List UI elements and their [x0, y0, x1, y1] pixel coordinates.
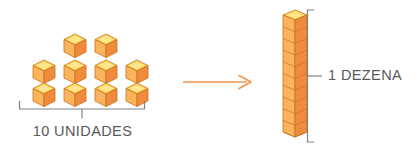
units-group: 10 UNIDADES	[0, 0, 175, 153]
units-caption: 10 UNIDADES	[0, 123, 165, 139]
units-bracket	[18, 100, 146, 120]
unit-cube	[93, 33, 119, 59]
ten-group: 1 DEZENA	[262, 0, 420, 153]
transform-arrow-icon	[183, 72, 257, 92]
place-value-figure: 10 UNIDADES	[0, 0, 420, 153]
ten-bracket	[306, 9, 324, 143]
ten-caption: 1 DEZENA	[328, 67, 402, 83]
unit-cube	[62, 33, 88, 59]
